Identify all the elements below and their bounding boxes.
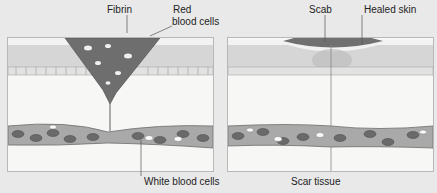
label-healed-skin: Healed skin (364, 4, 416, 15)
label-red-blood-cells-line2: blood cells (172, 16, 219, 27)
label-red-blood-cells-line1: Red (173, 4, 191, 15)
leader-lines (0, 0, 437, 193)
label-white-blood-cells: White blood cells (144, 176, 220, 187)
label-scab: Scab (309, 4, 332, 15)
label-scar-tissue: Scar tissue (291, 176, 340, 187)
